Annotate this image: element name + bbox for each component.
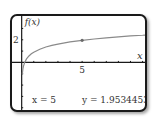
x-tick-label: 5 [79, 65, 85, 75]
x-readout: x = 5 [32, 95, 56, 105]
y-readout: y = 1.9534453 [82, 95, 147, 105]
calculator-graph-screen: f(x) x 52 x = 5 y = 1.9534453 [10, 14, 147, 112]
trace-point [81, 39, 84, 42]
y-axis-label: f(x) [24, 17, 41, 27]
y-tick-label: 2 [13, 35, 19, 45]
x-axis-label: x [137, 50, 143, 61]
